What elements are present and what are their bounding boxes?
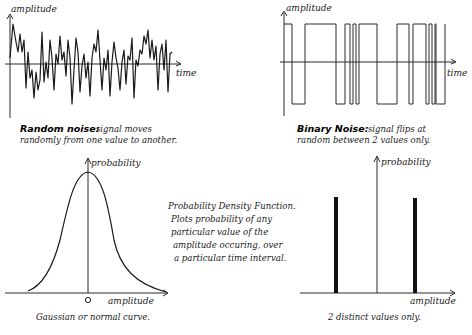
pdf-note-line2: Plots probability of any (170, 214, 272, 224)
pdf-note-line3: particular value of the (171, 227, 268, 237)
binary-pdf-y-label: probability (381, 157, 432, 167)
binary-noise-plot: amplitude time (280, 3, 467, 116)
random-noise-caption-title: Random noise: (20, 123, 100, 134)
random-noise-caption-line2: randomly from one value to another. (20, 135, 177, 145)
gaussian-caption: Gaussian or normal curve. (36, 312, 150, 322)
random-noise-x-label: time (176, 68, 196, 78)
pdf-description-note: Probability Density Function. Plots prob… (167, 201, 296, 263)
binary-noise-signal (284, 24, 445, 104)
binary-noise-caption: Binary Noise: signal flips at random bet… (297, 123, 430, 145)
pdf-note-line4: amplitude occuring, over (173, 240, 283, 250)
pdf-note-line1: Probability Density Function. (167, 201, 296, 211)
random-noise-caption-line1: signal moves (96, 124, 152, 134)
pdf-note-line5: a particular time interval. (174, 253, 286, 263)
binary-noise-caption-title: Binary Noise: (297, 123, 369, 134)
gaussian-y-label: probability (91, 158, 142, 168)
random-noise-y-label: amplitude (11, 4, 57, 14)
origin-marker (85, 297, 90, 302)
binary-pdf-x-label: amplitude (410, 296, 456, 306)
gaussian-curve (28, 172, 166, 292)
gaussian-x-label: amplitude (108, 296, 154, 306)
noise-diagram: amplitude time Random noise: signal move… (0, 0, 472, 335)
binary-noise-y-label: amplitude (286, 3, 332, 13)
random-noise-caption: Random noise: signal moves randomly from… (20, 123, 177, 145)
binary-noise-caption-line1: signal flips at (368, 124, 426, 134)
random-noise-plot: amplitude time (5, 4, 196, 118)
binary-noise-x-label: time (447, 68, 467, 78)
binary-pdf-plot: probability amplitude 2 distinct values … (300, 156, 456, 322)
binary-pdf-caption: 2 distinct values only. (327, 312, 421, 322)
gaussian-pdf-plot: probability amplitude Gaussian or normal… (5, 158, 168, 322)
binary-noise-caption-line2: random between 2 values only. (297, 135, 430, 145)
